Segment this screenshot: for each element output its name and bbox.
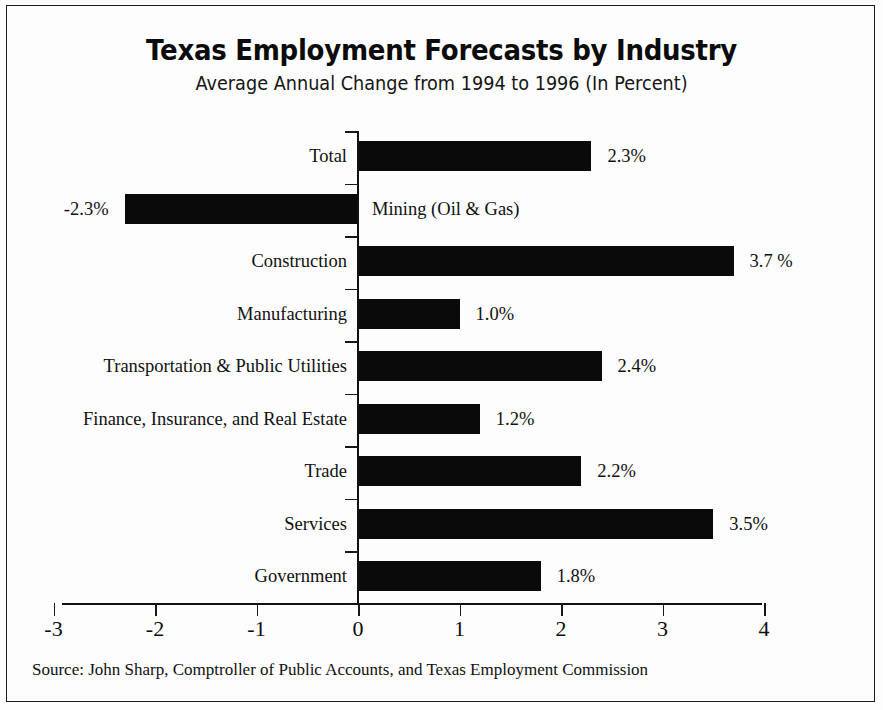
bar-row: Government1.8% bbox=[0, 551, 883, 601]
y-tick bbox=[345, 394, 358, 396]
bar-row: Mining (Oil & Gas)-2.3% bbox=[0, 184, 883, 234]
chart-figure: Texas Employment Forecasts by Industry A… bbox=[0, 0, 883, 710]
value-label: 2.3% bbox=[607, 147, 646, 166]
value-label: 2.2% bbox=[597, 462, 636, 481]
y-tick bbox=[345, 551, 358, 553]
y-tick bbox=[345, 604, 358, 606]
value-label: 2.4% bbox=[618, 357, 657, 376]
bar bbox=[125, 194, 358, 224]
category-label: Construction bbox=[251, 252, 347, 271]
category-label: Manufacturing bbox=[237, 304, 347, 323]
bar bbox=[358, 561, 541, 591]
x-tick bbox=[155, 603, 157, 616]
value-label: 1.0% bbox=[476, 304, 515, 323]
value-label: -2.3% bbox=[64, 199, 109, 218]
category-label: Transportation & Public Utilities bbox=[104, 357, 347, 376]
plot-area: Total2.3%Mining (Oil & Gas)-2.3%Construc… bbox=[0, 0, 883, 710]
x-tick-label: 2 bbox=[556, 618, 567, 640]
x-tick-label: 0 bbox=[353, 618, 364, 640]
y-tick bbox=[345, 131, 358, 133]
bar bbox=[358, 351, 602, 381]
bar bbox=[358, 509, 713, 539]
bar-row: Total2.3% bbox=[0, 131, 883, 181]
x-tick bbox=[257, 603, 259, 616]
bar-row: Trade2.2% bbox=[0, 446, 883, 496]
y-tick bbox=[345, 341, 358, 343]
zero-axis-line bbox=[357, 131, 359, 604]
bar bbox=[358, 141, 591, 171]
bar-row: Manufacturing1.0% bbox=[0, 289, 883, 339]
source-note: Source: John Sharp, Comptroller of Publi… bbox=[32, 660, 648, 680]
bar-row: Services3.5% bbox=[0, 499, 883, 549]
value-label: 3.5% bbox=[729, 514, 768, 533]
x-tick bbox=[460, 603, 462, 616]
category-label: Finance, Insurance, and Real Estate bbox=[83, 409, 347, 428]
x-tick bbox=[561, 603, 563, 616]
value-label: 1.2% bbox=[496, 409, 535, 428]
x-tick-label: 3 bbox=[657, 618, 668, 640]
category-label: Services bbox=[284, 514, 347, 533]
category-label: Mining (Oil & Gas) bbox=[372, 199, 519, 218]
x-tick-label: -3 bbox=[44, 618, 62, 640]
category-label: Government bbox=[255, 567, 347, 586]
bar bbox=[358, 456, 581, 486]
y-tick bbox=[345, 446, 358, 448]
bar-row: Transportation & Public Utilities2.4% bbox=[0, 341, 883, 391]
category-label: Trade bbox=[305, 462, 347, 481]
bar bbox=[358, 246, 734, 276]
bar bbox=[358, 299, 460, 329]
x-tick bbox=[764, 603, 766, 616]
x-axis-line bbox=[62, 603, 762, 605]
y-tick bbox=[345, 499, 358, 501]
x-tick-label: 1 bbox=[454, 618, 465, 640]
x-tick-label: -1 bbox=[247, 618, 265, 640]
bar-row: Finance, Insurance, and Real Estate1.2% bbox=[0, 394, 883, 444]
y-tick bbox=[345, 184, 358, 186]
x-tick bbox=[358, 603, 360, 616]
y-tick bbox=[345, 236, 358, 238]
x-tick-label: -2 bbox=[146, 618, 164, 640]
y-tick bbox=[345, 289, 358, 291]
value-label: 1.8% bbox=[557, 567, 596, 586]
x-tick bbox=[54, 603, 56, 616]
value-label: 3.7 % bbox=[750, 252, 793, 271]
bar-row: Construction3.7 % bbox=[0, 236, 883, 286]
x-tick bbox=[663, 603, 665, 616]
bar bbox=[358, 404, 480, 434]
category-label: Total bbox=[309, 147, 347, 166]
x-tick-label: 4 bbox=[759, 618, 770, 640]
